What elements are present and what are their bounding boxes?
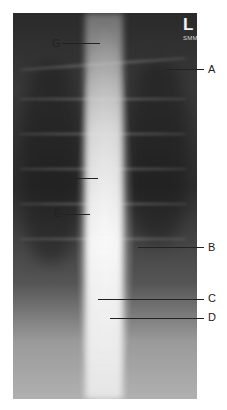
xray-image bbox=[13, 13, 197, 399]
label-c: C bbox=[208, 293, 216, 304]
label-a: A bbox=[208, 64, 215, 75]
leader-line-b bbox=[138, 247, 204, 248]
label-f: F bbox=[54, 173, 61, 184]
leader-line-f bbox=[62, 178, 98, 179]
leader-line-d bbox=[110, 318, 204, 319]
leader-line-e bbox=[62, 214, 90, 215]
right-lung-field bbox=[128, 63, 188, 243]
label-d: D bbox=[208, 312, 216, 323]
side-marker: L bbox=[183, 15, 193, 35]
leader-line-g bbox=[62, 43, 100, 44]
label-e: E bbox=[54, 208, 61, 219]
label-g: G bbox=[52, 38, 61, 49]
leader-line-a bbox=[166, 69, 204, 70]
side-marker-sub: SMM bbox=[183, 35, 198, 41]
left-lung-field bbox=[21, 63, 81, 263]
label-b: B bbox=[208, 242, 215, 253]
leader-line-c bbox=[98, 299, 204, 300]
spine-column bbox=[85, 13, 123, 399]
